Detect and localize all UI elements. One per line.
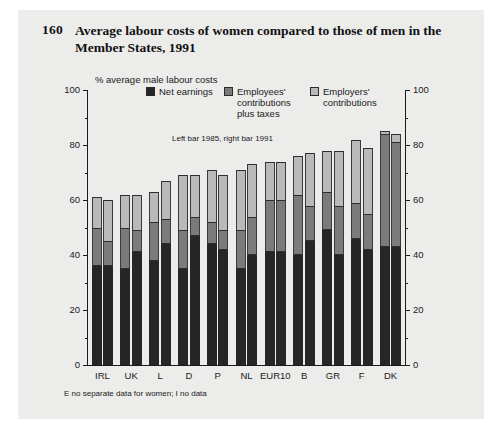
segment-net-earnings — [276, 252, 286, 365]
y-axis-label-right-80: 80 — [413, 139, 439, 150]
segment-employers-contributions — [305, 153, 315, 205]
y-tick-r-50 — [405, 228, 408, 229]
segment-net-earnings — [391, 247, 401, 365]
segment-net-earnings — [305, 241, 315, 365]
segment-net-earnings — [190, 236, 200, 365]
y-axis-caption: % average male labour costs — [95, 74, 218, 85]
bar-eur10-1985 — [265, 162, 275, 366]
segment-employers-contributions — [363, 148, 373, 214]
segment-employees-contributions — [322, 192, 332, 231]
bar-b-1991 — [305, 153, 315, 365]
y-tick-l-30 — [85, 283, 88, 284]
bar-group-l — [149, 90, 171, 365]
bar-irl-1985 — [92, 197, 102, 365]
segment-employers-contributions — [334, 151, 344, 206]
segment-net-earnings — [149, 261, 159, 366]
segment-employees-contributions — [265, 200, 275, 252]
segment-net-earnings — [161, 244, 171, 365]
segment-employees-contributions — [218, 230, 228, 249]
bar-group-f — [351, 90, 373, 365]
y-axis-label-right-20: 20 — [413, 304, 439, 315]
bar-d-1985 — [178, 175, 188, 365]
segment-employers-contributions — [322, 151, 332, 192]
segment-employees-contributions — [380, 134, 390, 247]
segment-employees-contributions — [120, 228, 130, 269]
bar-group-b — [293, 90, 315, 365]
bar-f-1985 — [351, 140, 361, 366]
y-tick-l-70 — [85, 173, 88, 174]
segment-net-earnings — [351, 239, 361, 366]
x-axis-label-dk: DK — [368, 370, 414, 381]
y-tick-r-80 — [405, 145, 410, 146]
segment-employees-contributions — [351, 203, 361, 239]
y-tick-r-30 — [405, 283, 408, 284]
segment-net-earnings — [218, 250, 228, 366]
segment-net-earnings — [380, 247, 390, 365]
figure-footnote: E no separate data for women; I no data — [64, 389, 207, 398]
y-axis-label-right-40: 40 — [413, 249, 439, 260]
y-tick-l-90 — [85, 118, 88, 119]
bar-group-p — [207, 90, 229, 365]
segment-employees-contributions — [236, 230, 246, 269]
y-axis-label-left-80: 80 — [54, 139, 80, 150]
segment-employees-contributions — [178, 230, 188, 269]
bar-uk-1991 — [132, 195, 142, 366]
bar-l-1991 — [161, 181, 171, 365]
y-axis-label-left-0: 0 — [54, 359, 80, 370]
bar-group-uk — [120, 90, 142, 365]
bar-eur10-1991 — [276, 162, 286, 366]
segment-net-earnings — [247, 255, 257, 365]
bar-nl-1991 — [247, 164, 257, 365]
segment-employees-contributions — [363, 214, 373, 250]
y-tick-r-40 — [405, 255, 410, 256]
y-tick-r-60 — [405, 200, 410, 201]
bar-group-nl — [236, 90, 258, 365]
bar-group-irl — [92, 90, 114, 365]
segment-employers-contributions — [236, 170, 246, 231]
bar-f-1991 — [363, 148, 373, 365]
y-tick-l-40 — [83, 255, 88, 256]
segment-employees-contributions — [207, 222, 217, 244]
segment-employees-contributions — [161, 219, 171, 244]
bar-group-d — [178, 90, 200, 365]
y-tick-l-80 — [83, 145, 88, 146]
bar-uk-1985 — [120, 195, 130, 366]
bar-p-1991 — [218, 175, 228, 365]
segment-employers-contributions — [149, 192, 159, 222]
segment-net-earnings — [363, 250, 373, 366]
chart-plot-area: 002020404060608080100100IRLUKLDPNLEUR10B… — [88, 90, 405, 365]
bar-dk-1985 — [380, 131, 390, 365]
segment-net-earnings — [322, 230, 332, 365]
bar-dk-1991 — [391, 134, 401, 365]
segment-employees-contributions — [391, 142, 401, 247]
segment-net-earnings — [293, 255, 303, 365]
y-axis-label-right-0: 0 — [413, 359, 439, 370]
bar-gr-1985 — [322, 151, 332, 366]
segment-employees-contributions — [305, 206, 315, 242]
segment-employers-contributions — [391, 134, 401, 142]
segment-net-earnings — [132, 252, 142, 365]
segment-employees-contributions — [276, 200, 286, 252]
bar-l-1985 — [149, 192, 159, 365]
segment-employers-contributions — [190, 175, 200, 216]
y-tick-r-20 — [405, 310, 410, 311]
segment-net-earnings — [103, 266, 113, 365]
segment-employers-contributions — [207, 170, 217, 222]
segment-employers-contributions — [265, 162, 275, 201]
segment-employees-contributions — [103, 241, 113, 266]
segment-employers-contributions — [132, 195, 142, 231]
y-axis-label-right-100: 100 — [413, 84, 439, 95]
segment-net-earnings — [236, 269, 246, 365]
bar-group-eur10 — [265, 90, 287, 365]
y-axis-label-left-60: 60 — [54, 194, 80, 205]
y-axis-label-left-20: 20 — [54, 304, 80, 315]
segment-employees-contributions — [293, 195, 303, 256]
y-tick-r-90 — [405, 118, 408, 119]
bar-group-gr — [322, 90, 344, 365]
bar-irl-1991 — [103, 200, 113, 365]
segment-employees-contributions — [92, 228, 102, 267]
segment-net-earnings — [334, 255, 344, 365]
segment-employers-contributions — [351, 140, 361, 203]
y-tick-l-0 — [83, 365, 88, 366]
y-tick-l-10 — [85, 338, 88, 339]
